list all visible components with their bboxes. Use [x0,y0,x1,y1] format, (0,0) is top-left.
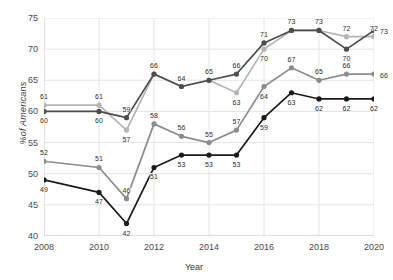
x-tick-label: 2018 [297,242,341,252]
data-point [179,134,184,139]
data-point-label: 66 [233,62,241,69]
data-point [234,128,239,133]
data-point-label: 64 [178,74,186,81]
data-point [316,96,321,101]
data-point [124,115,129,120]
data-point-label: 56 [178,124,186,131]
data-point-label: 51 [95,155,103,162]
data-point-label: 58 [150,111,158,118]
data-point [44,103,47,108]
data-point [206,140,211,145]
data-point [234,152,239,157]
y-tick-label: 50 [0,169,38,179]
data-point-label: 42 [123,229,131,236]
x-tick-label: 2008 [22,242,66,252]
y-tick-label: 55 [0,138,38,148]
data-point [234,71,239,76]
x-tick-label: 2010 [77,242,121,252]
x-tick-label: 2016 [242,242,286,252]
data-point-label: 46 [123,186,131,193]
data-point [179,152,184,157]
data-point [261,40,266,45]
data-point [289,65,294,70]
data-point [206,78,211,83]
data-point [151,121,156,126]
data-point-label: 57 [233,118,241,125]
x-tick-label: 2012 [132,242,176,252]
data-point [124,221,129,226]
data-point-label: 62 [315,104,323,111]
data-point [96,165,101,170]
data-point-label: 65 [315,68,323,75]
data-point [261,115,266,120]
data-point [261,84,266,89]
data-point-label: 71 [260,30,268,37]
y-tick-label: 40 [0,231,38,241]
data-point-label: 67 [288,55,296,62]
data-point-label: 72 [343,24,351,31]
data-point-label: 53 [205,161,213,168]
data-point [289,28,294,33]
data-point-label: 47 [95,198,103,205]
data-point-label: 66 [343,62,351,69]
data-point [344,34,349,39]
data-point [44,159,47,164]
data-point [344,71,349,76]
data-point-label: 65 [205,68,213,75]
data-point [344,47,349,52]
data-point [44,177,47,182]
data-point-label: 66 [150,62,158,69]
data-point-label: 53 [233,161,241,168]
y-tick-label: 75 [0,13,38,23]
data-point [124,196,129,201]
data-point [151,71,156,76]
data-point-label: 49 [40,185,48,192]
data-point [316,28,321,33]
data-point [371,96,374,101]
data-point-label: 73 [380,28,388,35]
y-tick-label: 65 [0,75,38,85]
data-point-label: 73 [315,18,323,25]
x-axis-title: Year [0,262,388,272]
data-point-label: 72 [370,24,378,31]
data-point [44,109,47,114]
series-canvas [44,18,374,236]
data-point-label: 61 [95,93,103,100]
data-point-label: 73 [288,18,296,25]
data-point-label: 59 [260,123,268,130]
data-point [96,109,101,114]
data-point [206,152,211,157]
data-point-label: 52 [40,149,48,156]
y-tick-label: 60 [0,106,38,116]
plot-area: 6161576664656370737372726060596666717073… [44,18,374,236]
data-point-label: 53 [178,161,186,168]
data-point [344,96,349,101]
data-point-label: 66 [380,72,388,79]
data-point-label: 62 [370,104,378,111]
data-point-label: 64 [260,92,268,99]
data-point [96,103,101,108]
data-point [234,90,239,95]
data-point [124,128,129,133]
x-tick-label: 2020 [352,242,393,252]
data-point-label: 59 [123,105,131,112]
y-tick-label: 70 [0,44,38,54]
data-point-label: 55 [205,130,213,137]
data-point-label: 51 [150,173,158,180]
data-point-label: 57 [123,136,131,143]
x-tick-label: 2014 [187,242,231,252]
data-point-label: 63 [233,98,241,105]
data-point-label: 62 [343,104,351,111]
data-point [316,78,321,83]
y-tick-label: 45 [0,200,38,210]
data-point [371,71,374,76]
data-point [179,84,184,89]
data-point [289,90,294,95]
data-point-label: 60 [40,117,48,124]
data-point [261,47,266,52]
data-point [151,165,156,170]
data-point [96,190,101,195]
data-point-label: 63 [288,98,296,105]
data-point-label: 70 [260,55,268,62]
